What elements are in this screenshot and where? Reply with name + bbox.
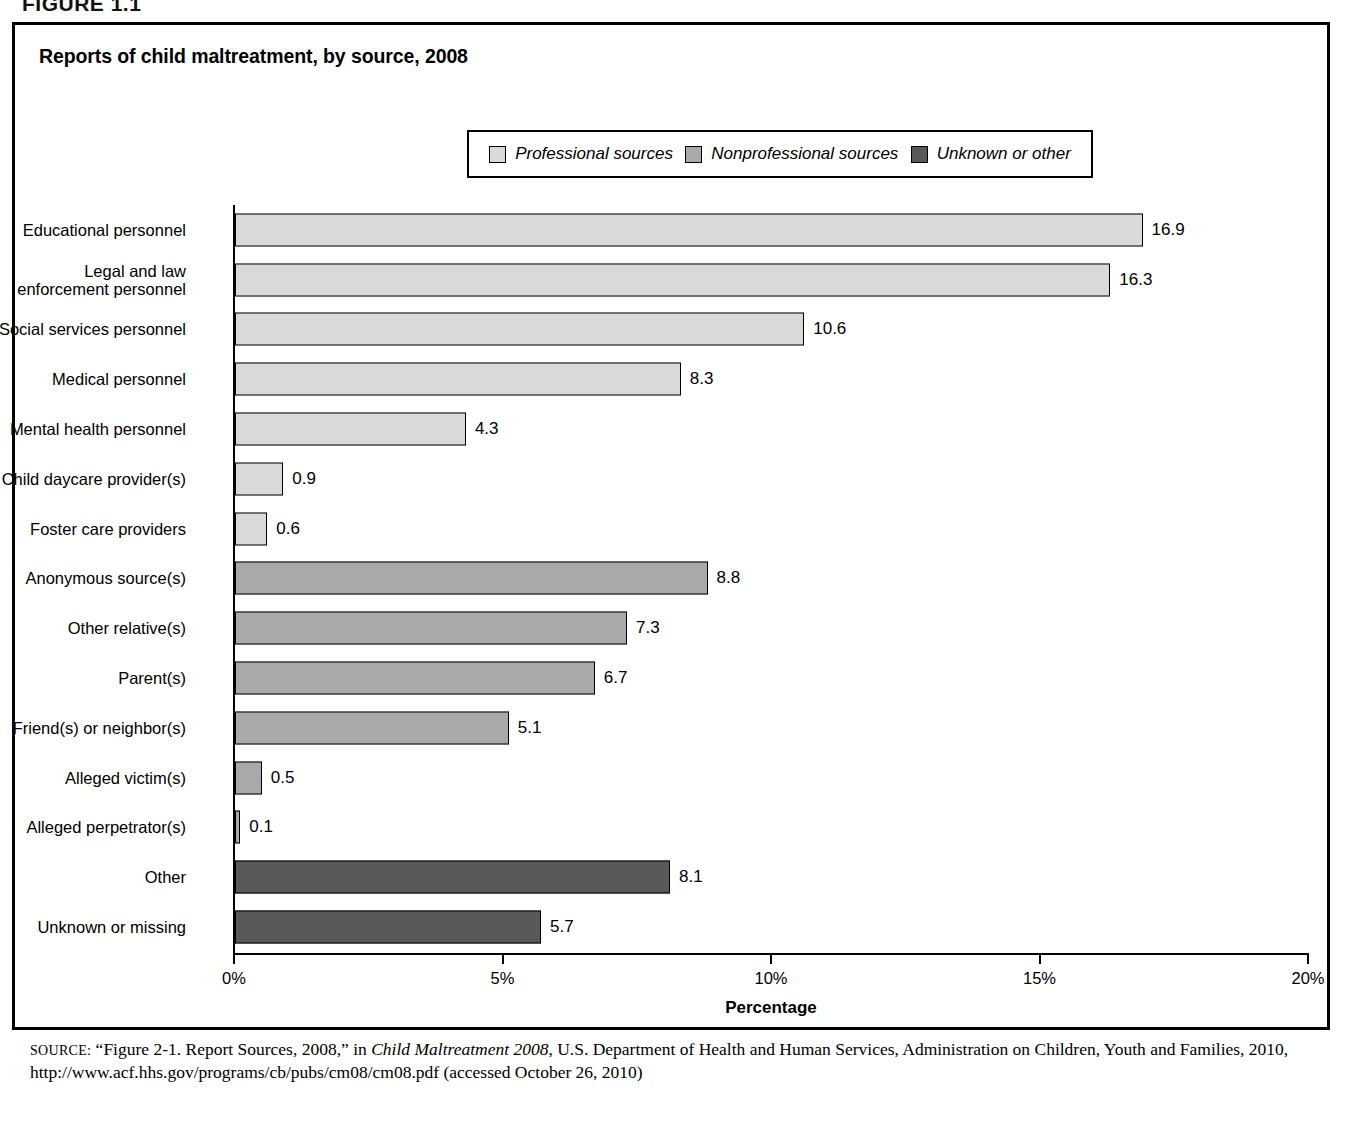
bar-category-label: Legal and law enforcement personnel bbox=[0, 261, 186, 298]
bar[interactable] bbox=[235, 363, 681, 396]
bar-row: Child daycare provider(s)0.9 bbox=[15, 454, 1327, 504]
source-note: SOURCE: “Figure 2-1. Report Sources, 200… bbox=[30, 1038, 1322, 1084]
x-axis-tick-mark bbox=[770, 955, 772, 964]
bar-category-label: Educational personnel bbox=[0, 221, 186, 239]
bar-value-label: 0.6 bbox=[276, 519, 300, 539]
bar[interactable] bbox=[235, 612, 627, 645]
bar-category-label: Alleged victim(s) bbox=[0, 768, 186, 786]
bar[interactable] bbox=[235, 662, 595, 695]
bar-value-label: 5.7 bbox=[550, 917, 574, 937]
bar-row: Unknown or missing5.7 bbox=[15, 902, 1327, 952]
bar-value-label: 8.3 bbox=[690, 369, 714, 389]
x-axis-tick-mark bbox=[1039, 955, 1041, 964]
bar-row: Medical personnel8.3 bbox=[15, 354, 1327, 404]
figure-number-header: FIGURE 1.1 bbox=[22, 0, 141, 14]
figure-box: Reports of child maltreatment, by source… bbox=[12, 22, 1330, 1030]
bar-value-label: 0.1 bbox=[249, 817, 273, 837]
bar-value-label: 0.5 bbox=[271, 768, 295, 788]
bar[interactable] bbox=[235, 313, 804, 346]
bar-category-label: Mental health personnel bbox=[0, 420, 186, 438]
x-axis-tick-label: 20% bbox=[1291, 969, 1324, 988]
bar[interactable] bbox=[235, 263, 1110, 296]
bar[interactable] bbox=[235, 512, 267, 545]
bar-category-label: Medical personnel bbox=[0, 370, 186, 388]
bar-row: Foster care providers0.6 bbox=[15, 504, 1327, 554]
bar-category-label: Friend(s) or neighbor(s) bbox=[0, 719, 186, 737]
source-prefix: SOURCE: bbox=[30, 1043, 91, 1058]
bar[interactable] bbox=[235, 761, 262, 794]
x-axis-tick-label: 10% bbox=[754, 969, 787, 988]
bar-row: Legal and law enforcement personnel16.3 bbox=[15, 255, 1327, 305]
bar-value-label: 5.1 bbox=[518, 718, 542, 738]
bar-value-label: 16.3 bbox=[1119, 270, 1152, 290]
bar-category-label: Other bbox=[0, 868, 186, 886]
bar-value-label: 4.3 bbox=[475, 419, 499, 439]
bar-row: Friend(s) or neighbor(s)5.1 bbox=[15, 703, 1327, 753]
bar[interactable] bbox=[235, 462, 283, 495]
bar[interactable] bbox=[235, 562, 708, 595]
x-axis-tick-mark bbox=[1307, 955, 1309, 964]
bar[interactable] bbox=[235, 711, 509, 744]
bar-value-label: 8.1 bbox=[679, 867, 703, 887]
bar[interactable] bbox=[235, 413, 466, 446]
source-publication-title: Child Maltreatment 2008 bbox=[371, 1039, 548, 1059]
x-axis-tick-label: 15% bbox=[1023, 969, 1056, 988]
bar-row: Anonymous source(s)8.8 bbox=[15, 554, 1327, 604]
bar[interactable] bbox=[235, 811, 240, 844]
bar-value-label: 0.9 bbox=[292, 469, 316, 489]
bar[interactable] bbox=[235, 861, 670, 894]
bar-category-label: Other relative(s) bbox=[0, 619, 186, 637]
bar-row: Alleged perpetrator(s)0.1 bbox=[15, 803, 1327, 853]
bar[interactable] bbox=[235, 911, 541, 944]
bar[interactable] bbox=[235, 213, 1143, 246]
source-text-part1: “Figure 2-1. Report Sources, 2008,” in bbox=[91, 1039, 371, 1059]
y-axis-line bbox=[233, 205, 235, 953]
bar-row: Alleged victim(s)0.5 bbox=[15, 753, 1327, 803]
x-axis-tick-mark bbox=[502, 955, 504, 964]
bar-category-label: Anonymous source(s) bbox=[0, 569, 186, 587]
bar-row: Social services personnel10.6 bbox=[15, 305, 1327, 355]
bar-category-label: Alleged perpetrator(s) bbox=[0, 818, 186, 836]
bar-value-label: 16.9 bbox=[1152, 220, 1185, 240]
bar-value-label: 10.6 bbox=[813, 319, 846, 339]
bar-row: Other8.1 bbox=[15, 852, 1327, 902]
bar-category-label: Social services personnel bbox=[0, 320, 186, 338]
bar-row: Educational personnel16.9 bbox=[15, 205, 1327, 255]
x-axis-tick-label: 5% bbox=[491, 969, 515, 988]
bar-row: Other relative(s)7.3 bbox=[15, 603, 1327, 653]
bar-category-label: Child daycare provider(s) bbox=[0, 470, 186, 488]
bar-category-label: Foster care providers bbox=[0, 519, 186, 537]
x-axis-tick-mark bbox=[233, 955, 235, 964]
bar-row: Parent(s)6.7 bbox=[15, 653, 1327, 703]
x-axis-tick-label: 0% bbox=[222, 969, 246, 988]
bar-value-label: 6.7 bbox=[604, 668, 628, 688]
bar-category-label: Unknown or missing bbox=[0, 918, 186, 936]
bar-rows: Educational personnel16.9Legal and law e… bbox=[15, 205, 1327, 952]
bar-row: Mental health personnel4.3 bbox=[15, 404, 1327, 454]
bar-category-label: Parent(s) bbox=[0, 669, 186, 687]
x-axis-title: Percentage bbox=[725, 998, 817, 1018]
bar-value-label: 7.3 bbox=[636, 618, 660, 638]
plot-area: Educational personnel16.9Legal and law e… bbox=[15, 25, 1327, 1027]
bar-value-label: 8.8 bbox=[717, 568, 741, 588]
figure-page: FIGURE 1.1 Reports of child maltreatment… bbox=[0, 0, 1347, 1131]
